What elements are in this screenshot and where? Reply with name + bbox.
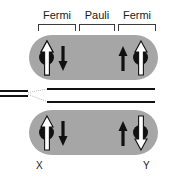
endpoint-label-y: Y <box>143 160 150 171</box>
lower-arrow-up-white-left <box>40 116 54 150</box>
endpoint-label-x: X <box>36 160 43 171</box>
fermi-left-bracket <box>38 24 76 31</box>
level-line-lower <box>47 101 155 103</box>
level-line-upper <box>47 88 155 90</box>
region-label-fermi-left: Fermi <box>38 9 76 21</box>
fermi-pauli-diagram: Fermi Pauli Fermi <box>0 0 170 179</box>
upper-arrow-up-black-right <box>118 46 128 71</box>
lower-arrow-down-white-right <box>134 116 148 150</box>
split-guide-upper <box>28 88 49 93</box>
region-label-fermi-right: Fermi <box>118 9 156 21</box>
split-guide-lower <box>28 94 48 102</box>
lead-line-lower <box>0 95 28 97</box>
region-label-pauli: Pauli <box>80 9 114 21</box>
fermi-right-bracket <box>118 24 156 31</box>
upper-arrow-up-white-left-overlay <box>40 41 54 75</box>
lead-line-upper <box>0 90 28 92</box>
pauli-bracket <box>79 24 115 31</box>
upper-arrow-down-black-left <box>58 46 68 71</box>
lower-arrow-up-black-right <box>118 121 128 146</box>
lower-arrow-down-black-left <box>58 121 68 146</box>
upper-arrow-up-white-right <box>134 41 148 75</box>
